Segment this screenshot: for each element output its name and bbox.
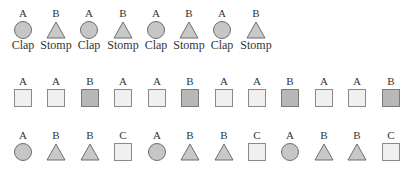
light-square-icon bbox=[248, 143, 266, 161]
pattern-label: B bbox=[239, 7, 273, 19]
pattern-label: A bbox=[39, 75, 73, 87]
pattern-item: A bbox=[6, 129, 40, 161]
light-square-icon bbox=[114, 89, 132, 107]
pattern-label: C bbox=[106, 129, 140, 141]
pattern-item: A bbox=[207, 75, 241, 107]
pattern-label: B bbox=[106, 7, 140, 19]
pattern-item: A bbox=[307, 75, 341, 107]
pattern-item: B bbox=[73, 75, 107, 107]
light-square-icon bbox=[382, 143, 400, 161]
pattern-item: A bbox=[240, 75, 274, 107]
circle-shape-icon bbox=[80, 21, 98, 39]
pattern-label: A bbox=[207, 75, 241, 87]
circle-shape-icon bbox=[148, 143, 166, 161]
pattern-item: B bbox=[374, 75, 408, 107]
pattern-item: C bbox=[106, 129, 140, 161]
pattern-label: A bbox=[307, 75, 341, 87]
triangle-shape-icon bbox=[46, 143, 66, 161]
pattern-label: A bbox=[140, 75, 174, 87]
triangle-shape-icon bbox=[314, 143, 334, 161]
pattern-item: B bbox=[207, 129, 241, 161]
triangle-shape-icon bbox=[180, 143, 200, 161]
light-square-icon bbox=[148, 89, 166, 107]
triangle-shape-icon bbox=[80, 143, 100, 161]
pattern-label: B bbox=[73, 75, 107, 87]
triangle-shape-icon bbox=[179, 21, 199, 39]
pattern-item: A bbox=[340, 75, 374, 107]
pattern-item: A bbox=[39, 75, 73, 107]
dark-square-icon bbox=[81, 89, 99, 107]
pattern-item: B bbox=[173, 75, 207, 107]
pattern-label: A bbox=[240, 75, 274, 87]
pattern-label: C bbox=[240, 129, 274, 141]
dark-square-icon bbox=[382, 89, 400, 107]
triangle-shape-icon bbox=[246, 21, 266, 39]
pattern-label: B bbox=[172, 7, 206, 19]
pattern-item: B bbox=[273, 75, 307, 107]
pattern-label: A bbox=[6, 75, 40, 87]
pattern-item: A bbox=[273, 129, 307, 161]
circle-shape-icon bbox=[147, 21, 165, 39]
pattern-label: A bbox=[139, 7, 173, 19]
pattern-label: B bbox=[173, 75, 207, 87]
pattern-label: A bbox=[6, 129, 40, 141]
pattern-label: A bbox=[140, 129, 174, 141]
pattern-item: B bbox=[173, 129, 207, 161]
pattern-item: B Stomp bbox=[239, 7, 273, 52]
pattern-label: A bbox=[6, 7, 40, 19]
pattern-item: C bbox=[374, 129, 408, 161]
pattern-item: A bbox=[140, 75, 174, 107]
pattern-item: A bbox=[6, 75, 40, 107]
circle-shape-icon bbox=[213, 21, 231, 39]
pattern-label: B bbox=[307, 129, 341, 141]
circle-shape-icon bbox=[14, 143, 32, 161]
pattern-item: C bbox=[240, 129, 274, 161]
pattern-item: B bbox=[340, 129, 374, 161]
pattern-label: B bbox=[374, 75, 408, 87]
triangle-shape-icon bbox=[46, 21, 66, 39]
circle-shape-icon bbox=[281, 143, 299, 161]
circle-shape-icon bbox=[14, 21, 32, 39]
dark-square-icon bbox=[181, 89, 199, 107]
pattern-label: B bbox=[39, 129, 73, 141]
triangle-shape-icon bbox=[214, 143, 234, 161]
pattern-label: A bbox=[205, 7, 239, 19]
light-square-icon bbox=[114, 143, 132, 161]
triangle-shape-icon bbox=[113, 21, 133, 39]
pattern-label: A bbox=[72, 7, 106, 19]
pattern-label: A bbox=[273, 129, 307, 141]
dark-square-icon bbox=[281, 89, 299, 107]
pattern-label: B bbox=[173, 129, 207, 141]
light-square-icon bbox=[14, 89, 32, 107]
pattern-label: B bbox=[39, 7, 73, 19]
pattern-label: B bbox=[73, 129, 107, 141]
pattern-label: A bbox=[340, 75, 374, 87]
light-square-icon bbox=[215, 89, 233, 107]
pattern-item: B bbox=[39, 129, 73, 161]
pattern-label: B bbox=[273, 75, 307, 87]
pattern-item: B bbox=[73, 129, 107, 161]
triangle-shape-icon bbox=[347, 143, 367, 161]
pattern-item: A bbox=[106, 75, 140, 107]
pattern-item: B bbox=[307, 129, 341, 161]
pattern-caption: Stomp bbox=[231, 39, 281, 52]
light-square-icon bbox=[248, 89, 266, 107]
light-square-icon bbox=[315, 89, 333, 107]
light-square-icon bbox=[47, 89, 65, 107]
pattern-label: A bbox=[106, 75, 140, 87]
light-square-icon bbox=[348, 89, 366, 107]
pattern-label: B bbox=[340, 129, 374, 141]
pattern-label: B bbox=[207, 129, 241, 141]
pattern-label: C bbox=[374, 129, 408, 141]
pattern-item: A bbox=[140, 129, 174, 161]
